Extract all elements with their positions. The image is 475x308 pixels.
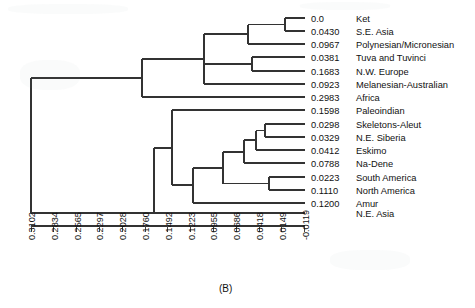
axis-tick-label: 0.0149 [278, 212, 288, 240]
leaf-label: Tuva and Tuvinci [356, 53, 426, 63]
leaf-labels: Ket S.E. Asia Polynesian/Micronesian Tuv… [356, 14, 454, 219]
leaf-value: 0.0923 [311, 80, 339, 90]
axis-tick-label: 0.2834 [50, 212, 60, 240]
leaf-label: Eskimo [356, 146, 386, 156]
axis-tick-label: 0.3102 [27, 212, 37, 240]
leaf-value: 0.1200 [311, 199, 339, 209]
axis-tick-label: 0.0955 [209, 212, 219, 240]
axis-tick-label: -0.0119 [301, 210, 311, 240]
leaf-label: N.W. Europe [356, 67, 409, 77]
dendrogram-canvas: 0.3102 0.2834 0.2565 0.2297 0.2028 0.176… [0, 0, 475, 308]
leaf-label: Paleoindian [356, 106, 405, 116]
axis-tick-labels: 0.3102 0.2834 0.2565 0.2297 0.2028 0.176… [27, 210, 311, 240]
leaf-value: 0.2983 [311, 93, 339, 103]
leaf-label: South America [356, 173, 417, 183]
leaf-value: 0.1110 [311, 186, 338, 196]
leaf-label: N.E. Asia [356, 209, 395, 219]
leaf-label: Ket [356, 14, 370, 24]
figure-caption: (B) [219, 283, 232, 294]
leaf-label: N.E. Siberia [356, 133, 406, 143]
leaf-value: 0.0430 [311, 27, 339, 37]
leaf-values: 0.0 0.0430 0.0967 0.0381 0.1683 0.0923 0… [311, 14, 339, 209]
tree-branches [31, 18, 305, 213]
leaf-value: 0.1598 [311, 106, 339, 116]
axis-tick-label: 0.0418 [255, 212, 265, 240]
leaf-value: 0.0788 [311, 159, 339, 169]
leaf-value: 0.0967 [311, 40, 339, 50]
leaf-value: 0.0 [311, 14, 324, 24]
leaf-label: Na-Dene [356, 159, 393, 169]
axis-tick-label: 0.1760 [141, 212, 151, 240]
dendrogram-figure: 0.3102 0.2834 0.2565 0.2297 0.2028 0.176… [0, 0, 475, 308]
leaf-value: 0.0223 [311, 173, 339, 183]
leaf-label: North America [356, 186, 416, 196]
leaf-value: 0.0381 [311, 53, 339, 63]
leaf-label: Africa [356, 93, 381, 103]
axis-tick-label: 0.0686 [232, 212, 242, 240]
axis-tick-label: 0.1223 [187, 212, 197, 240]
leaf-label: Skeletons-Aleut [356, 120, 422, 130]
axis-tick-label: 0.1492 [164, 212, 174, 240]
leaf-label: S.E. Asia [356, 27, 395, 37]
leaf-value: 0.1683 [311, 67, 339, 77]
leaf-label: Amur [356, 199, 378, 209]
axis-tick-label: 0.2565 [73, 212, 83, 240]
axis-tick-label: 0.2297 [95, 212, 105, 240]
leaf-value: 0.0298 [311, 120, 339, 130]
leaf-value: 0.0412 [311, 146, 339, 156]
leaf-value: 0.0329 [311, 133, 339, 143]
leaf-label: Melanesian-Australian [356, 80, 448, 90]
leaf-label: Polynesian/Micronesian [356, 40, 454, 50]
axis-tick-label: 0.2028 [118, 212, 128, 240]
